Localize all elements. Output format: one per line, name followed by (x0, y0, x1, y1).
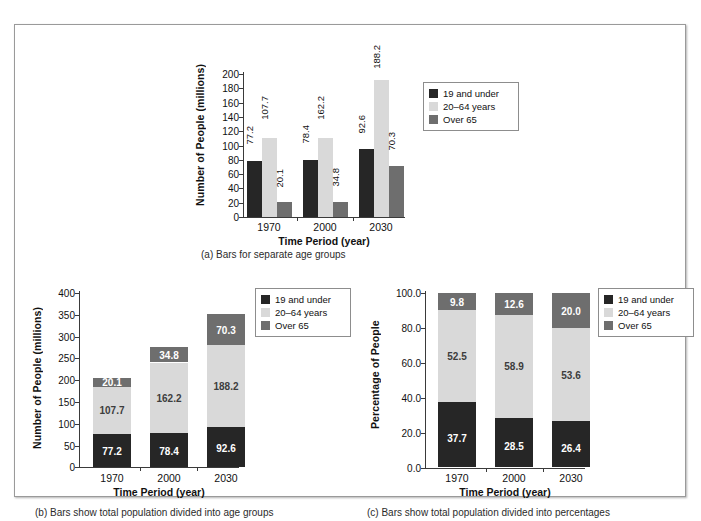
x-tick: 2000 (313, 221, 336, 233)
tick (239, 203, 243, 204)
y-tick: 40 (228, 183, 239, 194)
bar-value-label: 107.7 (259, 96, 270, 120)
tick (239, 131, 243, 132)
tick (353, 217, 354, 221)
tick (421, 328, 425, 329)
bar-2030-over65[interactable] (389, 166, 404, 217)
bar-value-label: 70.3 (386, 132, 397, 151)
y-tick: 80 (228, 154, 239, 165)
y-tick: 50 (64, 440, 75, 451)
tick (239, 217, 243, 218)
tick (239, 103, 243, 104)
bar-1970-under19[interactable] (247, 161, 262, 217)
panel-b-x-axis (79, 467, 239, 468)
segment-label: 37.7 (447, 433, 466, 444)
panel-a-x-axis (243, 217, 405, 218)
legend-swatch-19-and-under-icon (604, 295, 613, 304)
tick (75, 358, 79, 359)
x-tick: 2030 (214, 472, 237, 484)
segment-label: 53.6 (561, 370, 580, 381)
bar-value-label: 20.1 (274, 169, 285, 188)
bar-2030-under19[interactable] (359, 149, 374, 217)
tick (239, 88, 243, 89)
x-tick: 2030 (369, 221, 392, 233)
bar-value-label: 77.2 (244, 126, 255, 145)
tick (239, 188, 243, 189)
y-tick: 300 (58, 331, 75, 342)
panel-c-y-axis (425, 291, 426, 468)
segment-label: 162.2 (156, 393, 181, 404)
tick (239, 74, 243, 75)
legend-row: 20–64 years (604, 306, 687, 319)
panel-c-x-axis-label: Time Period (year) (425, 486, 585, 498)
x-tick: 2000 (502, 472, 525, 484)
y-tick: 200 (58, 375, 75, 386)
legend-label: 19 and under (275, 294, 331, 305)
tick (297, 217, 298, 221)
y-tick: 100.0 (396, 288, 421, 299)
y-tick: 20 (228, 197, 239, 208)
legend-row: Over 65 (429, 113, 512, 126)
legend-label: Over 65 (443, 114, 477, 125)
segment-label: 12.6 (504, 299, 523, 310)
bar-2000-over65[interactable] (333, 202, 348, 217)
tick (75, 446, 79, 447)
panel-b-y-ticks: 400 350 300 250 200 150 100 50 0 (47, 270, 75, 480)
panel-c-y-ticks: 100.0 80.0 60.0 40.0 20.0 0.0 (385, 270, 421, 480)
tick (421, 293, 425, 294)
panel-a-y-axis-label: Number of People (millions) (194, 55, 206, 215)
y-tick: 60 (228, 169, 239, 180)
segment-label: 92.6 (216, 443, 235, 454)
segment-label: 20.0 (561, 305, 580, 316)
panel-c-legend: 19 and under 20–64 years Over 65 (598, 288, 694, 337)
y-tick: 250 (58, 353, 75, 364)
tick (421, 363, 425, 364)
segment-label: 188.2 (213, 381, 238, 392)
segment-label: 26.4 (561, 443, 580, 454)
legend-row: Over 65 (261, 319, 344, 332)
legend-row: 19 and under (261, 293, 344, 306)
legend-swatch-20-64-years-icon (261, 308, 270, 317)
panel-a-legend: 19 and under 20–64 years Over 65 (423, 82, 519, 131)
y-tick: 400 (58, 288, 75, 299)
panel-a-y-ticks: 200 180 160 140 120 100 80 60 40 20 0 (209, 33, 239, 233)
tick (75, 402, 79, 403)
y-tick: 80.0 (402, 322, 421, 333)
segment-label: 58.9 (504, 361, 523, 372)
tick (421, 468, 425, 469)
bar-value-label: 92.6 (356, 115, 367, 134)
y-tick: 180 (222, 83, 239, 94)
y-tick: 100 (222, 140, 239, 151)
bar-value-label: 162.2 (315, 96, 326, 120)
figure-frame: Number of People (millions) 200 180 160 … (14, 24, 686, 497)
segment-label: 9.8 (450, 296, 464, 307)
panel-c-y-axis-label: Percentage of People (369, 305, 381, 445)
panel-b-caption: (b) Bars show total population divided i… (35, 507, 273, 518)
y-tick: 100 (58, 418, 75, 429)
panel-b-legend: 19 and under 20–64 years Over 65 (255, 288, 351, 337)
panel-b-y-axis (79, 291, 80, 468)
tick (543, 468, 544, 472)
bar-2000-under19[interactable] (303, 160, 318, 217)
legend-row: Over 65 (604, 319, 687, 332)
segment-label: 28.5 (504, 441, 523, 452)
tick (75, 337, 79, 338)
legend-label: Over 65 (618, 320, 652, 331)
segment-label: 78.4 (159, 446, 178, 457)
tick (75, 380, 79, 381)
y-tick: 150 (58, 397, 75, 408)
tick (75, 293, 79, 294)
tick (421, 398, 425, 399)
tick (239, 160, 243, 161)
tick (75, 424, 79, 425)
legend-label: 20–64 years (618, 307, 670, 318)
x-tick: 1970 (100, 472, 123, 484)
y-tick: 0.0 (407, 462, 421, 473)
segment-label: 34.8 (159, 349, 178, 360)
bar-value-label: 78.4 (300, 125, 311, 144)
y-tick: 40.0 (402, 392, 421, 403)
segment-label: 20.1 (102, 377, 121, 388)
chart-panel-a: Number of People (millions) 200 180 160 … (185, 33, 565, 248)
bar-1970-over65[interactable] (277, 202, 292, 217)
tick (239, 117, 243, 118)
